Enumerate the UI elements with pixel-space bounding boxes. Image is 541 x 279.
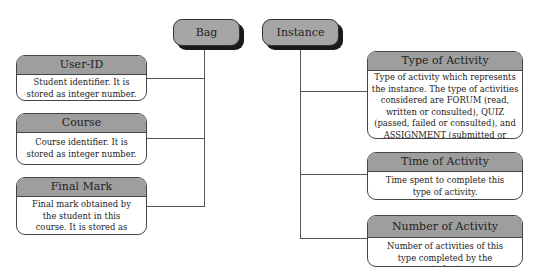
connector-user-id bbox=[146, 78, 205, 79]
number-of-activity-title: Number of Activity bbox=[368, 216, 522, 238]
final-mark-title: Final Mark bbox=[17, 178, 146, 197]
bag-label: Bag bbox=[196, 26, 218, 39]
connector-time-of-activity bbox=[300, 174, 367, 175]
course-description: Course identifier. It is stored as integ… bbox=[17, 133, 146, 162]
type-of-activity-description: Type of activity which represents the in… bbox=[368, 71, 522, 139]
type-of-activity-card: Type of Activity Type of activity which … bbox=[367, 51, 523, 139]
time-of-activity-card: Time of Activity Time spent to complete … bbox=[367, 152, 523, 200]
type-of-activity-title: Type of Activity bbox=[368, 52, 522, 71]
time-of-activity-title: Time of Activity bbox=[368, 153, 522, 172]
number-of-activity-description: Number of activities of this type comple… bbox=[368, 238, 522, 267]
final-mark-card: Final Mark Final mark obtained by the st… bbox=[16, 177, 147, 235]
connector-course bbox=[146, 138, 205, 139]
bag-trunk-line bbox=[204, 46, 205, 207]
course-title: Course bbox=[17, 114, 146, 133]
user-id-description: Student identifier. It is stored as inte… bbox=[17, 75, 146, 101]
connector-final-mark bbox=[146, 206, 205, 207]
instance-trunk-line bbox=[300, 46, 301, 239]
bag-node: Bag bbox=[173, 19, 240, 46]
instance-label: Instance bbox=[277, 26, 325, 39]
user-id-card: User-ID Student identifier. It is stored… bbox=[16, 55, 147, 101]
final-mark-description: Final mark obtained by the student in th… bbox=[17, 197, 146, 235]
connector-number-of-activity bbox=[300, 238, 367, 239]
number-of-activity-card: Number of Activity Number of activities … bbox=[367, 215, 523, 267]
time-of-activity-description: Time spent to complete this type of acti… bbox=[368, 172, 522, 200]
instance-node: Instance bbox=[262, 19, 339, 46]
connector-type-of-activity bbox=[300, 91, 367, 92]
user-id-title: User-ID bbox=[17, 56, 146, 75]
course-card: Course Course identifier. It is stored a… bbox=[16, 113, 147, 165]
